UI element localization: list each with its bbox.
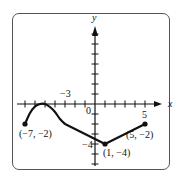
endpoint-dot	[22, 121, 27, 126]
x-tick-label: −3	[60, 88, 71, 99]
point-label: (5, −2)	[126, 129, 153, 141]
point-label: (1, −4)	[103, 147, 130, 159]
endpoint-dot	[142, 121, 147, 126]
y-axis-label: y	[91, 12, 97, 23]
endpoint-dot	[102, 141, 107, 146]
point-label: (−7, −2)	[19, 128, 52, 140]
function-graph: xy−305−4(−7, −2)(1, −4)(5, −2)	[0, 0, 177, 179]
x-axis-arrow	[154, 101, 162, 107]
x-axis-label: x	[167, 98, 173, 109]
x-tick-label: 5	[142, 109, 147, 120]
y-tick-label: −4	[82, 139, 93, 150]
x-tick-label: 0	[86, 105, 91, 116]
